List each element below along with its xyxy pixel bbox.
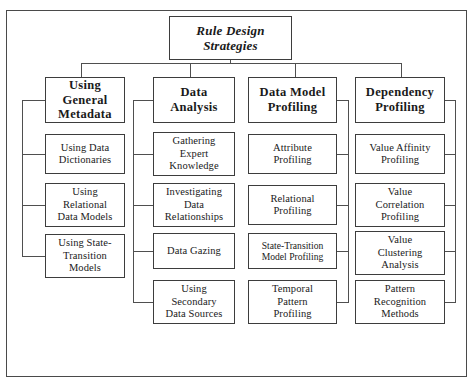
connector-trunk-branch-1 [22, 100, 23, 256]
connector-stub-b1-child-3 [22, 256, 45, 257]
leaf-node-using-relational-data-models[interactable]: Using Relational Data Models [45, 183, 125, 227]
branch-header-data-analysis[interactable]: Data Analysis [153, 77, 235, 123]
leaf-node-label: Temporal Pattern Profiling [249, 283, 336, 320]
connector-stub-b3-child-3 [337, 251, 349, 252]
leaf-node-label: State-Transition Model Profiling [249, 240, 336, 263]
leaf-node-data-gazing[interactable]: Data Gazing [153, 233, 235, 269]
branch-header-label: Data Analysis [154, 85, 234, 115]
connector-stub-b3-child-4 [337, 302, 349, 303]
connector-stub-b2-header [133, 100, 153, 101]
leaf-node-label: Pattern Recognition Methods [356, 283, 444, 320]
connector-stub-b1-child-2 [22, 205, 45, 206]
leaf-node-label: Data Gazing [154, 245, 234, 257]
leaf-node-label: Investigating Data Relationships [154, 186, 234, 223]
leaf-node-using-secondary-data-sources[interactable]: Using Secondary Data Sources [153, 280, 235, 324]
branch-header-data-model-profiling[interactable]: Data Model Profiling [248, 77, 337, 123]
root-node-label: Rule Design Strategies [170, 23, 291, 54]
connector-drop-branch-2 [190, 63, 191, 77]
leaf-node-label: Relational Profiling [249, 193, 336, 218]
leaf-node-label: Value Clustering Analysis [356, 234, 444, 271]
connector-stub-b2-child-4 [133, 302, 153, 303]
leaf-node-value-clustering-analysis[interactable]: Value Clustering Analysis [355, 231, 445, 275]
root-node-rule-design-strategies[interactable]: Rule Design Strategies [169, 16, 292, 60]
connector-stub-b2-child-3 [133, 251, 153, 252]
leaf-node-label: Value Correlation Profiling [356, 186, 444, 223]
leaf-node-label: Gathering Expert Knowledge [154, 135, 234, 172]
branch-header-label: Using General Metadata [46, 78, 124, 122]
leaf-node-using-data-dictionaries[interactable]: Using Data Dictionaries [45, 134, 125, 174]
branch-header-using-general-metadata[interactable]: Using General Metadata [45, 77, 125, 123]
leaf-node-using-state-transition-models[interactable]: Using State- Transition Models [45, 234, 125, 278]
connector-stub-b4-child-3 [445, 251, 456, 252]
leaf-node-gathering-expert-knowledge[interactable]: Gathering Expert Knowledge [153, 132, 235, 176]
connector-drop-branch-4 [401, 63, 402, 77]
connector-stub-b3-child-1 [337, 154, 349, 155]
leaf-node-temporal-pattern-profiling[interactable]: Temporal Pattern Profiling [248, 280, 337, 324]
connector-trunk-branch-2 [133, 100, 134, 302]
connector-stub-b3-header [337, 100, 349, 101]
connector-stub-b4-child-4 [445, 302, 456, 303]
leaf-node-label: Attribute Profiling [249, 142, 336, 167]
leaf-node-pattern-recognition-methods[interactable]: Pattern Recognition Methods [355, 280, 445, 324]
leaf-node-investigating-data-relationships[interactable]: Investigating Data Relationships [153, 183, 235, 227]
connector-drop-branch-1 [81, 63, 82, 77]
leaf-node-label: Using Data Dictionaries [46, 142, 124, 167]
branch-header-label: Data Model Profiling [249, 85, 336, 115]
connector-drop-branch-3 [295, 63, 296, 77]
diagram-canvas: Rule Design Strategies Using General Met… [0, 0, 474, 388]
branch-header-dependency-profiling[interactable]: Dependency Profiling [355, 77, 445, 123]
leaf-node-value-correlation-profiling[interactable]: Value Correlation Profiling [355, 183, 445, 227]
connector-stub-b4-child-1 [445, 154, 456, 155]
leaf-node-label: Using State- Transition Models [46, 237, 124, 274]
connector-stub-b2-child-2 [133, 205, 153, 206]
connector-main-bus [81, 63, 401, 64]
leaf-node-label: Using Relational Data Models [46, 186, 124, 223]
connector-trunk-branch-3 [348, 100, 349, 302]
connector-stub-b4-header [445, 100, 456, 101]
connector-stub-b2-child-1 [133, 154, 153, 155]
leaf-node-value-affinity-profiling[interactable]: Value Affinity Profiling [355, 134, 445, 174]
connector-stub-b4-child-2 [445, 205, 456, 206]
branch-header-label: Dependency Profiling [356, 85, 444, 115]
leaf-node-attribute-profiling[interactable]: Attribute Profiling [248, 134, 337, 174]
connector-trunk-branch-4 [455, 100, 456, 302]
leaf-node-label: Value Affinity Profiling [356, 142, 444, 167]
connector-stub-b1-child-1 [22, 154, 45, 155]
leaf-node-label: Using Secondary Data Sources [154, 283, 234, 320]
leaf-node-state-transition-model-profiling[interactable]: State-Transition Model Profiling [248, 233, 337, 269]
connector-stub-b1-header [22, 100, 45, 101]
leaf-node-relational-profiling[interactable]: Relational Profiling [248, 185, 337, 225]
connector-stub-b3-child-2 [337, 205, 349, 206]
